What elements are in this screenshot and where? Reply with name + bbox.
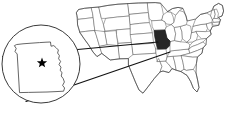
state-oregon [78, 18, 95, 33]
state-colorado [117, 29, 132, 44]
state-oklahoma [132, 43, 156, 54]
state-utah [105, 31, 118, 46]
state-georgia [181, 56, 197, 71]
state-minnesota [148, 3, 164, 21]
locator-map-graphic [0, 0, 231, 114]
state-delaware-maryland [196, 31, 211, 39]
inset-state-missouri-outline [15, 42, 65, 93]
missouri-detail-inset [2, 25, 80, 103]
state-nebraska [130, 23, 152, 35]
state-connecticut-rhode-island [213, 22, 220, 25]
state-new-jersey [207, 23, 213, 31]
state-wyoming [104, 16, 131, 31]
map-figure: Missouri locator map Outline map of the … [0, 0, 231, 114]
state-iowa [152, 20, 166, 30]
